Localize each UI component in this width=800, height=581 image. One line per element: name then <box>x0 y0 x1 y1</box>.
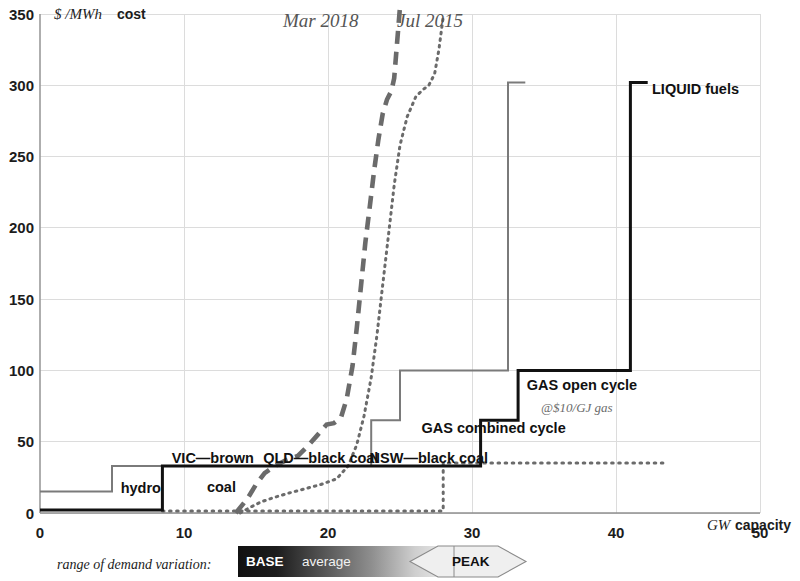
x-tick-40: 40 <box>608 524 625 541</box>
y-tick-100: 100 <box>9 362 34 379</box>
series-legend: Mar 2018 Jul 2015 <box>282 10 463 31</box>
series-path-mar-2018-demand-duration <box>162 463 667 511</box>
y-tick-200: 200 <box>9 219 34 236</box>
annotation-liquid-fuels: LIQUID fuels <box>652 81 739 97</box>
y-tick-350: 350 <box>9 6 34 23</box>
annotation-hydro: hydro <box>121 480 161 496</box>
y-tick-150: 150 <box>9 291 34 308</box>
x-axis-unit-symbol: GW <box>707 517 732 533</box>
y-axis-unit-symbol: $ /MWh <box>54 6 102 22</box>
annotation-nsw-black-coal: NSW—black coal <box>370 450 488 466</box>
annotation-qld-black-coal: QLD—black coal <box>263 450 378 466</box>
annotation-gas-open-cycle-price: @$10/GJ gas <box>541 400 613 415</box>
y-tick-0: 0 <box>26 505 34 522</box>
series-legend-jul2015: Jul 2015 <box>397 10 463 31</box>
series-path-jul-2015 <box>240 17 443 513</box>
x-tick-20: 20 <box>320 524 337 541</box>
curve-annotations: hydroVIC—browncoalQLD—black coalNSW—blac… <box>121 81 739 496</box>
demand-legend-peak: PEAK <box>452 554 490 569</box>
annotation-gas-open-cycle: GAS open cycle <box>527 377 637 393</box>
series-legend-mar2018: Mar 2018 <box>282 10 359 31</box>
annotation-vic-brown-coal-1: VIC—brown <box>172 450 254 466</box>
demand-legend-caption: range of demand variation: <box>57 557 211 572</box>
series-path-supply-curve-current <box>40 82 648 510</box>
demand-legend-average: average <box>302 554 351 569</box>
cost-supply-curve-chart: 050100150200250300350 01020304050 $ /MWh… <box>0 0 800 581</box>
annotation-gas-combined-cycle: GAS combined cycle <box>421 420 565 436</box>
x-tick-30: 30 <box>464 524 481 541</box>
y-tick-300: 300 <box>9 77 34 94</box>
y-axis-unit-word: cost <box>117 6 146 22</box>
annotation-vic-brown-coal-2: coal <box>207 479 236 495</box>
x-tick-10: 10 <box>176 524 193 541</box>
y-tick-50: 50 <box>17 433 34 450</box>
series-path-mar-2018 <box>236 7 400 513</box>
demand-variation-legend: range of demand variation: BASE average … <box>57 546 526 577</box>
y-tick-250: 250 <box>9 148 34 165</box>
demand-legend-base: BASE <box>246 554 284 569</box>
chart-canvas: 050100150200250300350 01020304050 $ /MWh… <box>0 0 800 581</box>
x-tick-labels: 01020304050 <box>36 524 769 541</box>
data-series-layer <box>40 7 668 513</box>
x-axis-unit-word: capacity <box>735 517 791 533</box>
y-tick-labels: 050100150200250300350 <box>9 6 34 522</box>
x-tick-0: 0 <box>36 524 44 541</box>
